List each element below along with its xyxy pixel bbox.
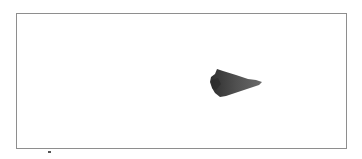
corner-mark — [48, 151, 51, 153]
arrowhead-object — [0, 0, 362, 159]
